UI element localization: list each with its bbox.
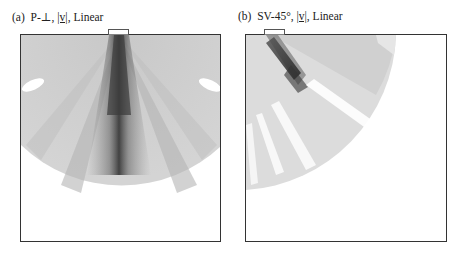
panel-b-transducer [264, 29, 285, 35]
panel-a-label: (a) [12, 11, 25, 23]
panel-b-beam-field [246, 35, 447, 242]
panel-a-caption: (a) P-⊥, |v|, Linear [12, 10, 103, 24]
panel-b-quantity: |v| [297, 10, 307, 22]
panel-b-scale: , Linear [307, 10, 343, 22]
panel-a-quantity: |v| [57, 11, 67, 23]
panel-b-caption: (b) SV-45°, |v|, Linear [238, 10, 343, 22]
panel-a-beam-field [21, 35, 221, 242]
panel-a-plot [20, 34, 221, 242]
panel-a-transducer [108, 29, 129, 35]
panel-b-label: (b) [238, 10, 251, 22]
panel-a-scale: , Linear [68, 11, 104, 23]
panel-b-plot [245, 34, 447, 242]
panel-a-wave-mode: P-⊥, [31, 11, 55, 23]
panel-b-wave-mode: SV-45°, [257, 10, 293, 22]
